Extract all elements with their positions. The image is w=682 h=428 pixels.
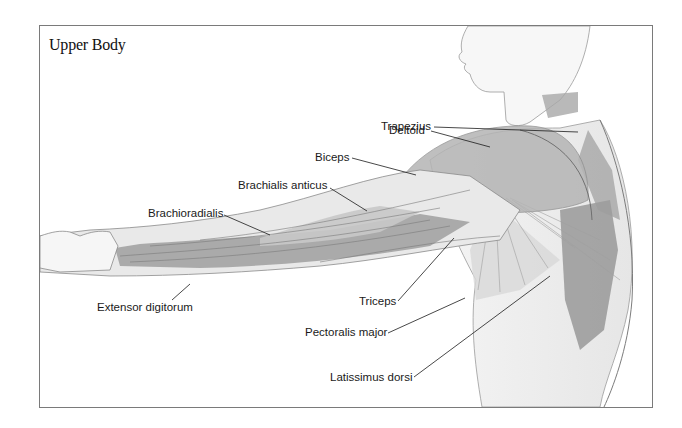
label-extensor-digitorum: Extensor digitorum	[97, 302, 193, 314]
label-brachioradialis: Brachioradialis	[148, 208, 223, 220]
label-pectoralis-major: Pectoralis major	[305, 327, 387, 339]
figure-title: Upper Body	[49, 36, 126, 54]
anatomy-illustration	[0, 0, 682, 428]
head-outline	[459, 26, 590, 126]
leader-extensor-digitorum	[172, 284, 190, 300]
label-biceps: Biceps	[315, 152, 350, 164]
leader-pectoralis-major	[388, 298, 465, 333]
leader-biceps	[352, 158, 416, 175]
label-triceps: Triceps	[359, 296, 396, 308]
label-latissimus-dorsi: Latissimus dorsi	[330, 372, 412, 384]
label-brachialis-anticus: Brachialis anticus	[238, 180, 327, 192]
label-deltoid: Deltoid	[389, 125, 425, 137]
